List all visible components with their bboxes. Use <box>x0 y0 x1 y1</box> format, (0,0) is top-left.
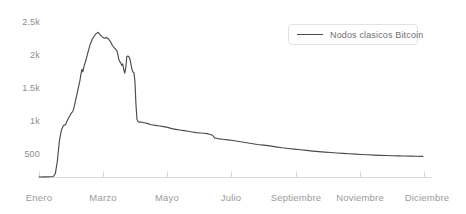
legend-label: Nodos clasicos Bitcoin <box>330 30 423 40</box>
series-line-nodos-clasicos-bitcoin <box>39 32 423 177</box>
x-axis-ticks <box>40 172 425 178</box>
chart-legend[interactable]: Nodos clasicos Bitcoin <box>288 24 418 45</box>
x-tick-label-mayo: Mayo <box>155 192 179 203</box>
bitcoin-nodes-line-chart: 2.5k 2k 1.5k 1k 500 Enero Marzo Mayo Jul… <box>0 0 466 214</box>
x-tick-label-enero: Enero <box>26 192 52 203</box>
legend-line-swatch-icon <box>297 34 323 35</box>
x-tick-label-noviembre: Noviembre <box>336 192 384 203</box>
x-tick-label-septiembre: Septiembre <box>271 192 322 203</box>
x-tick-label-julio: Julio <box>221 192 242 203</box>
x-tick-label-diciembre: Diciembre <box>405 192 450 203</box>
x-tick-label-marzo: Marzo <box>89 192 116 203</box>
